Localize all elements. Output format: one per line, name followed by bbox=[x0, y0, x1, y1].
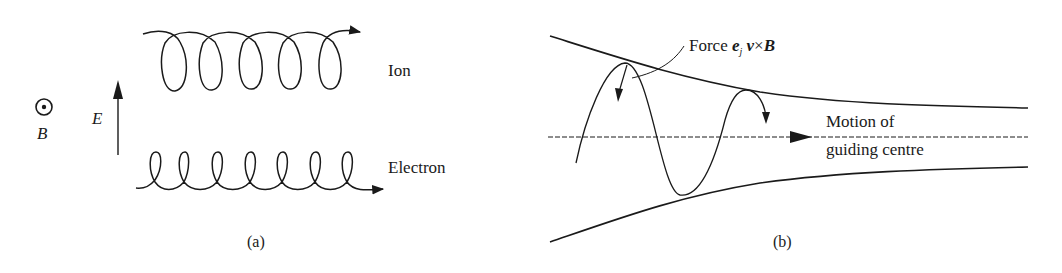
motion-label-line1: Motion of bbox=[826, 113, 894, 130]
e-field-arrow bbox=[113, 80, 123, 155]
force-cross: × bbox=[754, 36, 764, 55]
b-field-label: B bbox=[37, 125, 47, 142]
particle-orbit bbox=[576, 63, 766, 195]
force-charge: e bbox=[732, 36, 740, 55]
force-arrow-2 bbox=[762, 112, 770, 124]
caption-b: (b) bbox=[773, 234, 792, 250]
b-field-out-of-page-icon bbox=[36, 99, 52, 115]
lower-field-boundary bbox=[550, 167, 1028, 242]
electron-label: Electron bbox=[388, 159, 446, 176]
force-arrow-1 bbox=[615, 65, 627, 102]
ion-label: Ion bbox=[388, 62, 411, 79]
upper-field-boundary bbox=[550, 36, 1028, 108]
guiding-centre-axis bbox=[548, 131, 1028, 143]
force-label: Force ej v×B bbox=[689, 37, 775, 57]
ion-trajectory bbox=[143, 31, 360, 91]
electron-trajectory bbox=[136, 152, 383, 190]
motion-label-line2: guiding centre bbox=[826, 141, 924, 158]
caption-a: (a) bbox=[247, 234, 265, 250]
force-field: B bbox=[764, 36, 775, 55]
e-field-label: E bbox=[92, 110, 102, 127]
force-label-prefix: Force bbox=[689, 36, 732, 55]
force-velocity: v bbox=[742, 36, 754, 55]
figure-drawing bbox=[0, 0, 1062, 273]
